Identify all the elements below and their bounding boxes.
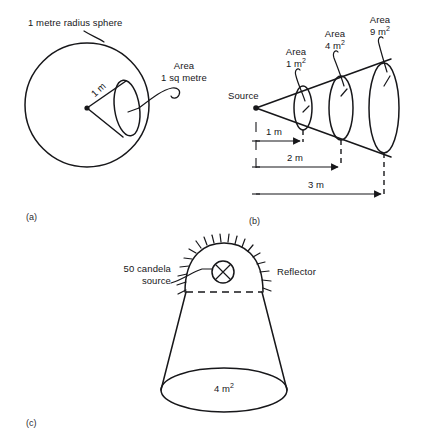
section-ellipse-1m	[294, 86, 312, 130]
candela-source-label-line2: source	[142, 275, 171, 286]
area-leader-9m2	[378, 37, 387, 72]
sphere-outline	[25, 43, 149, 167]
area-label-1m2-line1: Area	[286, 46, 306, 57]
panel-tag-c: (c)	[26, 418, 37, 428]
lamp-symbol-cross	[216, 265, 231, 280]
area-label-9m2-exp: 2	[386, 25, 390, 32]
area-label-9m2-line1: Area	[370, 14, 390, 25]
beam-wall-right	[262, 292, 287, 390]
beam-area-label-value: 4 m	[214, 383, 230, 394]
dimension-label-3m: 3 m	[308, 179, 324, 191]
source-label-b: Source	[228, 90, 259, 102]
area-label-4m2-line1: Area	[325, 28, 345, 39]
figure-root: 1 metre radius sphere 1 m Area 1 sq metr…	[0, 0, 422, 444]
patch-tick	[128, 108, 139, 112]
sphere-caption: 1 metre radius sphere	[28, 17, 123, 29]
area-label-1m2-exp: 2	[302, 57, 306, 64]
section-ellipse-3m	[369, 63, 399, 153]
area-label-4m2-line2: 4 m	[325, 40, 341, 51]
beam-area-label-exp: 2	[230, 382, 234, 389]
panel-tag-b: (b)	[249, 216, 260, 226]
dimension-label-2m: 2 m	[287, 152, 303, 164]
source-leader-c	[171, 269, 212, 283]
caption-leader-a	[84, 31, 104, 42]
panel-a-graphic	[25, 31, 180, 167]
candela-source-label: 50 candela source	[81, 263, 171, 287]
beam-area-label: 4 m2	[200, 383, 248, 395]
reflector-dome	[185, 243, 263, 292]
area-label-a: Area 1 sq metre	[152, 60, 216, 84]
area-leader-1m2	[295, 69, 305, 101]
beam-wall-left	[161, 292, 186, 390]
section-3-tick	[384, 76, 390, 86]
section-1-tick	[303, 106, 309, 112]
panel-tag-a: (a)	[26, 212, 37, 222]
area-label-1m2-line2: 1 m	[286, 58, 302, 69]
reflector-label: Reflector	[277, 266, 316, 278]
area-label-9m2: Area 9 m2	[356, 14, 404, 38]
area-label-a-line1: Area	[174, 60, 194, 71]
area-leader-a	[139, 88, 180, 108]
section-ellipse-2m	[329, 76, 353, 140]
candela-source-label-line1: 50 candela	[124, 263, 171, 274]
area-label-9m2-line2: 9 m	[370, 26, 386, 37]
section-2-tick	[341, 89, 347, 96]
dimension-label-1m: 1 m	[266, 126, 282, 138]
area-label-4m2-exp: 2	[341, 39, 345, 46]
area-label-4m2: Area 4 m2	[311, 28, 359, 52]
area-label-a-line2: 1 sq metre	[161, 72, 207, 83]
